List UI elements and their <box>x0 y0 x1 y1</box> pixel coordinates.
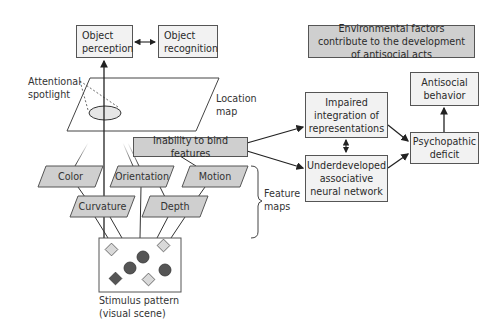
stimulus-pattern-label: Stimulus pattern (visual scene) <box>99 294 181 320</box>
inability-to-bind-box: Inability to bind features <box>133 137 248 157</box>
object-recognition-box: Object recognition <box>158 25 218 58</box>
feature-label-orientation: Orientation <box>114 166 170 187</box>
impaired-integration-text: Impaired integration of representations <box>309 96 384 135</box>
antisocial-behavior-box: Antisocial behavior <box>410 72 479 106</box>
feature-label-color: Color <box>42 166 99 187</box>
feature-label-motion: Motion <box>186 166 244 187</box>
underdeveloped-network-text: Underdeveloped associative neural networ… <box>307 159 386 198</box>
location-map-plane <box>67 78 219 131</box>
feature-maps-label: Feature maps <box>264 187 304 213</box>
feature-label-curvature: Curvature <box>74 196 131 217</box>
environmental-factors-box: Environmental factors contribute to the … <box>308 25 475 58</box>
psychopathic-deficit-box: Psychopathic deficit <box>410 132 479 164</box>
environmental-factors-text: Environmental factors contribute to the … <box>315 22 468 61</box>
antisocial-behavior-text: Antisocial behavior <box>417 76 472 102</box>
object-perception-box: Object perception <box>76 25 133 58</box>
feature-integration-diagram: Object perception Object recognition Env… <box>0 0 500 335</box>
object-perception-text: Object perception <box>82 29 133 55</box>
inability-to-bind-text: Inability to bind features <box>134 134 247 160</box>
feature-label-depth: Depth <box>146 196 204 217</box>
underdeveloped-network-box: Underdeveloped associative neural networ… <box>305 155 388 202</box>
psychopathic-deficit-text: Psychopathic deficit <box>413 135 476 161</box>
impaired-integration-box: Impaired integration of representations <box>305 92 388 138</box>
object-recognition-text: Object recognition <box>164 29 218 55</box>
location-map-label: Location map <box>216 92 246 118</box>
attentional-spotlight-label: Attentional spotlight <box>28 75 86 101</box>
spotlight-ellipse <box>89 106 121 120</box>
